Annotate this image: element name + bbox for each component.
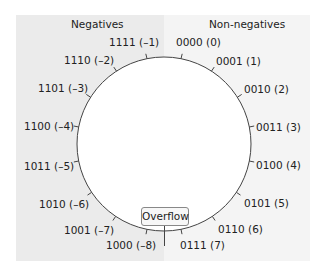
label-0010: 0010 (2) <box>244 83 289 95</box>
label-1011: 1011 (–5) <box>24 160 74 172</box>
negatives-heading: Negatives <box>71 18 124 30</box>
label-0100: 0100 (4) <box>256 159 301 171</box>
label-1111: 1111 (–1) <box>109 36 159 48</box>
label-0110: 0110 (6) <box>218 223 263 235</box>
label-0111: 0111 (7) <box>180 239 225 251</box>
label-1000: 1000 (–8) <box>106 239 156 251</box>
label-1110: 1110 (–2) <box>64 54 114 66</box>
overflow-callout: Overflow <box>141 207 189 226</box>
label-0001: 0001 (1) <box>216 55 261 67</box>
wheel-circle <box>77 57 251 231</box>
label-1100: 1100 (–4) <box>24 120 74 132</box>
label-1101: 1101 (–3) <box>38 82 88 94</box>
number-wheel <box>0 0 325 273</box>
label-1001: 1001 (–7) <box>64 224 114 236</box>
non-negatives-heading: Non-negatives <box>209 18 285 30</box>
label-0011: 0011 (3) <box>256 121 301 133</box>
label-0000: 0000 (0) <box>176 36 221 48</box>
label-0101: 0101 (5) <box>244 197 289 209</box>
label-1010: 1010 (–6) <box>39 198 89 210</box>
